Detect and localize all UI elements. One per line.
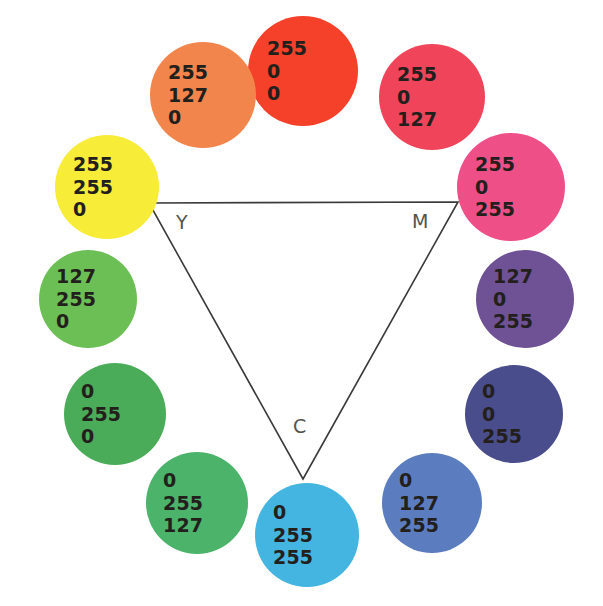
swatch-value-g: 255: [163, 492, 203, 514]
swatch-value-g: 0: [475, 176, 488, 198]
swatch-azure: 0127255: [382, 453, 482, 553]
swatch-value-r: 255: [73, 153, 113, 175]
swatch-value-g: 127: [168, 84, 208, 106]
swatch-value-r: 0: [81, 380, 94, 402]
swatch-yellow: 2552550: [55, 135, 159, 239]
swatch-value-r: 255: [168, 61, 208, 83]
swatch-rgb-values: 0127255: [397, 469, 439, 536]
swatch-value-r: 0: [273, 501, 286, 523]
swatch-value-g: 255: [56, 288, 96, 310]
vertex-yellow-label: Y: [176, 211, 188, 233]
swatch-value-g: 0: [493, 288, 506, 310]
swatch-value-g: 127: [399, 492, 439, 514]
vertex-cyan-label: C: [293, 415, 307, 437]
swatch-rgb-values: 02550: [79, 380, 121, 447]
swatch-violet: 1270255: [476, 250, 574, 348]
swatch-value-b: 0: [168, 106, 181, 128]
swatch-rgb-values: 2552550: [71, 153, 113, 220]
swatch-value-g: 0: [482, 403, 495, 425]
swatch-magenta: 2550255: [457, 133, 565, 241]
swatch-blue: 00255: [465, 365, 563, 463]
swatch-cyan: 0255255: [255, 483, 359, 587]
swatch-rgb-values: 2550127: [395, 63, 437, 130]
swatch-value-g: 255: [81, 403, 121, 425]
swatch-value-b: 255: [475, 198, 515, 220]
swatch-value-b: 0: [56, 310, 69, 332]
swatch-value-g: 0: [267, 60, 280, 82]
swatch-value-b: 0: [267, 82, 280, 104]
swatch-spring-green: 0255127: [146, 452, 248, 554]
swatch-rgb-values: 25500: [265, 37, 307, 104]
swatch-value-r: 0: [163, 469, 176, 491]
swatch-orange: 2551270: [150, 42, 256, 148]
swatch-rgb-values: 1272550: [54, 265, 96, 332]
swatch-value-r: 127: [56, 265, 96, 287]
swatch-value-r: 255: [397, 63, 437, 85]
color-wheel-figure: 2550025501272550255127025500255012725502…: [0, 0, 603, 606]
swatch-value-b: 127: [163, 514, 203, 536]
swatch-value-b: 255: [399, 514, 439, 536]
vertex-magenta-label: M: [412, 210, 429, 232]
swatch-rgb-values: 00255: [480, 380, 522, 447]
swatch-value-g: 255: [273, 524, 313, 546]
swatch-rgb-values: 1270255: [491, 265, 533, 332]
swatch-value-b: 255: [482, 425, 522, 447]
cmy-triangle-outline: [149, 202, 458, 479]
swatch-rose: 2550127: [379, 44, 485, 150]
swatch-value-b: 0: [73, 198, 86, 220]
swatch-rgb-values: 0255127: [161, 469, 203, 536]
swatch-rgb-values: 2550255: [473, 153, 515, 220]
swatch-rgb-values: 2551270: [166, 61, 208, 128]
swatch-rgb-values: 0255255: [271, 501, 313, 568]
swatch-green: 02550: [64, 363, 166, 465]
swatch-value-b: 0: [81, 425, 94, 447]
swatch-value-b: 127: [397, 108, 437, 130]
swatch-value-r: 0: [399, 469, 412, 491]
swatch-value-r: 255: [267, 37, 307, 59]
swatch-value-g: 0: [397, 86, 410, 108]
swatch-chartreuse: 1272550: [39, 250, 137, 348]
swatch-value-r: 0: [482, 380, 495, 402]
swatch-value-g: 255: [73, 176, 113, 198]
swatch-value-r: 127: [493, 265, 533, 287]
swatch-value-b: 255: [273, 546, 313, 568]
swatch-value-b: 255: [493, 310, 533, 332]
swatch-red: 25500: [248, 16, 358, 126]
swatch-value-r: 255: [475, 153, 515, 175]
